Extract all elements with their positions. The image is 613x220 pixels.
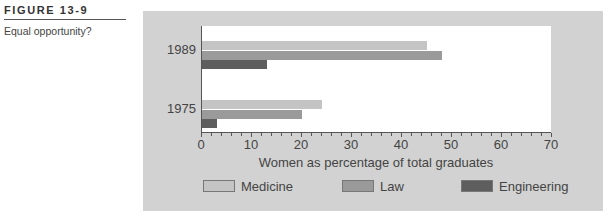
legend-swatch [203,180,235,192]
x-tick [471,133,472,136]
x-tick [431,133,432,136]
bar-law-1975 [202,110,302,119]
x-tick-label: 70 [536,137,566,152]
bar-medicine-1989 [202,41,427,50]
x-tick-label: 10 [236,137,266,152]
x-tick [421,133,422,136]
bar-engineering-1975 [202,119,217,128]
legend-label: Medicine [241,179,293,194]
legend-label: Law [380,179,404,194]
x-tick [241,133,242,136]
x-tick [341,133,342,136]
x-tick-label: 60 [486,137,516,152]
x-tick [391,133,392,136]
legend-swatch [461,180,493,192]
x-tick [321,133,322,136]
legend-item-law: Law [342,179,404,193]
legend-item-medicine: Medicine [203,179,293,193]
x-tick [261,133,262,136]
x-tick [271,133,272,136]
x-tick [211,133,212,136]
legend-item-engineering: Engineering [461,179,568,193]
legend-swatch [342,180,374,192]
x-tick [311,133,312,136]
x-tick [521,133,522,136]
x-tick [461,133,462,136]
x-tick [381,133,382,136]
x-tick [491,133,492,136]
x-tick [361,133,362,136]
bar-engineering-1989 [202,60,267,69]
x-tick-label: 30 [336,137,366,152]
x-tick [441,133,442,136]
bar-medicine-1975 [202,100,322,109]
figure-rule [4,19,126,20]
x-tick [531,133,532,136]
x-tick [291,133,292,136]
x-axis-label: Women as percentage of total graduates [201,155,551,170]
x-tick [481,133,482,136]
figure-label: FIGURE 13-9 [4,4,88,16]
y-label-1975: 1975 [146,101,196,116]
x-tick [231,133,232,136]
x-tick [511,133,512,136]
bar-law-1989 [202,51,442,60]
x-tick-label: 20 [286,137,316,152]
x-tick [541,133,542,136]
x-tick [221,133,222,136]
x-tick [281,133,282,136]
legend-label: Engineering [499,179,568,194]
x-tick-label: 50 [436,137,466,152]
x-tick-label: 40 [386,137,416,152]
plot-area [201,26,551,133]
figure-caption: Equal opportunity? [4,25,92,37]
x-tick [331,133,332,136]
y-label-1989: 1989 [146,42,196,57]
x-tick [411,133,412,136]
x-tick-label: 0 [186,137,216,152]
x-tick [371,133,372,136]
